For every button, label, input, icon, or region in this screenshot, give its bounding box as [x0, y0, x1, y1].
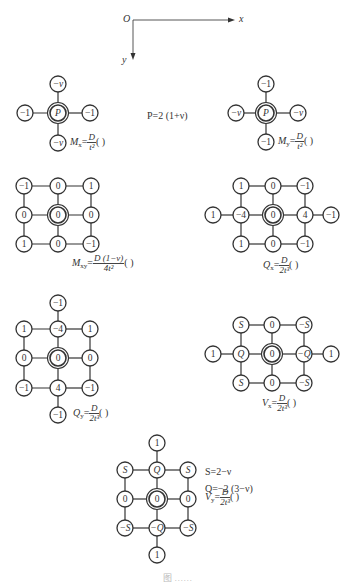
formula-my: My=Dt²( )	[278, 132, 313, 151]
stencil-node: 0	[265, 178, 281, 194]
node-value: S	[123, 465, 128, 475]
stencil-node: −1	[82, 105, 98, 121]
stencil-node: −1	[258, 134, 274, 150]
formula-mx: Mx=Dt²( )	[70, 133, 105, 152]
stencil-node: −S	[117, 520, 133, 536]
node-value: −1	[19, 181, 29, 191]
stencil-node: 1	[16, 321, 32, 337]
stencil-node: 0	[265, 236, 281, 252]
node-value: 0	[155, 494, 160, 504]
stencil-node: 0	[180, 491, 196, 507]
stencil-center-node: 0	[48, 348, 69, 369]
stencil-node: −1	[16, 380, 32, 396]
node-value: 1	[239, 239, 244, 249]
arrow-down-icon	[131, 53, 136, 60]
node-value: 1	[329, 349, 334, 359]
node-value: 1	[239, 181, 244, 191]
stencil-mxy: −10100010−1	[16, 178, 99, 252]
stencil-node: −S	[296, 317, 312, 333]
node-value: 1	[88, 324, 93, 334]
node-value: 0	[271, 181, 276, 191]
stencil-node: 1	[205, 207, 221, 223]
node-value: 1	[211, 210, 216, 220]
node-value: −S	[182, 523, 193, 533]
node-value: −ν	[53, 138, 64, 148]
formula-qy: Qy=D2t³( )	[73, 404, 108, 423]
node-value: −1	[53, 410, 63, 420]
node-value: −4	[236, 210, 246, 220]
node-value: 0	[56, 210, 61, 220]
node-value: −ν	[231, 108, 242, 118]
node-value: 0	[22, 353, 27, 363]
node-value: −1	[261, 137, 271, 147]
formula-mxy: Mxy=D (1−ν)4t²( )	[72, 254, 133, 273]
stencil-node: 4	[297, 207, 313, 223]
stencil-node: 4	[50, 380, 66, 396]
node-value: −S	[298, 320, 309, 330]
stencil-center-node: 0	[147, 489, 168, 510]
stencil-node: 1	[83, 178, 99, 194]
node-value: −4	[53, 324, 63, 334]
node-value: −1	[19, 383, 29, 393]
stencil-vx: S0−S1Q0−Q1S0−S	[205, 317, 339, 391]
stencil-node: −1	[323, 207, 339, 223]
node-value: 4	[303, 210, 308, 220]
node-value: 0	[271, 239, 276, 249]
formula-vx: Vx=D2t³( )	[262, 394, 296, 413]
node-value: P	[262, 108, 269, 118]
stencil-node: −1	[50, 407, 66, 423]
stencil-node: S	[180, 462, 196, 478]
stencil-node: −4	[233, 207, 249, 223]
stencil-center-node: 0	[48, 205, 69, 226]
stencil-node: 1	[205, 346, 221, 362]
node-value: 0	[22, 210, 27, 220]
node-value: 0	[56, 239, 61, 249]
node-value: −1	[53, 298, 63, 308]
formula-qx: Qx=D2t³( )	[263, 256, 298, 275]
stencil-node: 1	[233, 178, 249, 194]
stencil-node: −Q	[149, 520, 165, 536]
stencil-node: −1	[297, 178, 313, 194]
stencil-node: −1	[83, 236, 99, 252]
stencil-vy: 1SQS000−S−Q−S1	[117, 435, 196, 563]
node-value: −ν	[293, 108, 304, 118]
axis-origin-label: O	[123, 14, 130, 24]
node-value: −1	[326, 210, 336, 220]
node-value: P	[54, 108, 61, 118]
node-value: Q	[154, 465, 161, 475]
stencil-node: 1	[149, 435, 165, 451]
stencil-qx: 10−11−404−110−1	[205, 178, 339, 252]
node-value: 0	[270, 320, 275, 330]
stencil-node: −S	[180, 520, 196, 536]
stencil-node: −ν	[50, 76, 66, 92]
stencil-node: −4	[50, 321, 66, 337]
node-value: −1	[20, 108, 30, 118]
node-value: 1	[155, 550, 160, 560]
stencil-center-node: P	[256, 103, 277, 124]
stencil-node: 0	[264, 317, 280, 333]
arrow-right-icon	[228, 18, 235, 23]
stencil-node: −1	[17, 105, 33, 121]
stencil-node: 0	[50, 178, 66, 194]
coordinate-axes	[131, 18, 236, 61]
stencil-node: 1	[233, 236, 249, 252]
stencil-node: 1	[149, 547, 165, 563]
stencil-node: 0	[117, 491, 133, 507]
node-value: 0	[56, 181, 61, 191]
node-value: 1	[22, 239, 27, 249]
figure-caption: 图 ……	[0, 571, 355, 584]
stencil-node: −ν	[50, 135, 66, 151]
stencil-node: 0	[83, 207, 99, 223]
stencil-node: S	[233, 317, 249, 333]
node-value: −S	[298, 378, 309, 388]
stencil-node: −1	[82, 380, 98, 396]
p-definition: P=2 (1+ν)	[147, 111, 188, 121]
formula-vy: Vy=D2t³( )	[205, 488, 239, 507]
stencil-node: S	[117, 462, 133, 478]
node-value: 0	[89, 210, 94, 220]
node-value: Q	[238, 349, 245, 359]
stencil-center-node: 0	[263, 205, 284, 226]
stencil-center-node: P	[48, 103, 69, 124]
node-value: 4	[56, 383, 61, 393]
stencil-node: 1	[323, 346, 339, 362]
